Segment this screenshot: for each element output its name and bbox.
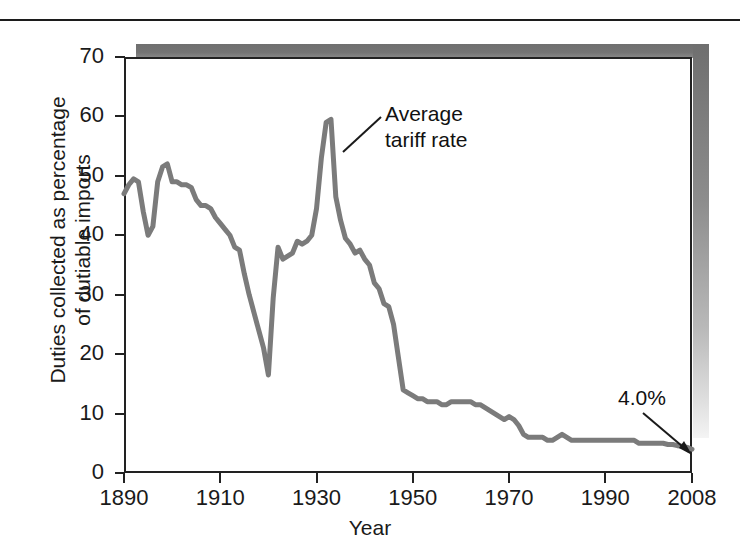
x-tick-1890 — [123, 473, 125, 483]
y-tick-40 — [115, 234, 125, 236]
x-tick-1970 — [508, 473, 510, 483]
x-tick-label-1890: 1890 — [79, 486, 169, 510]
x-tick-1950 — [412, 473, 414, 483]
x-tick-label-1910: 1910 — [175, 486, 265, 510]
y-tick-30 — [115, 294, 125, 296]
plot-shadow-top — [136, 44, 709, 58]
x-tick-label-1950: 1950 — [368, 486, 458, 510]
y-tick-70 — [115, 56, 125, 58]
x-axis-title: Year — [0, 516, 740, 540]
y-tick-20 — [115, 353, 125, 355]
x-tick-label-1930: 1930 — [272, 486, 362, 510]
x-tick-label-1970: 1970 — [464, 486, 554, 510]
x-tick-1930 — [316, 473, 318, 483]
chart-stage: 010203040506070 189019101930195019701990… — [0, 0, 740, 558]
x-tick-1910 — [219, 473, 221, 483]
x-tick-1990 — [604, 473, 606, 483]
y-tick-60 — [115, 115, 125, 117]
x-tick-2008 — [691, 473, 693, 483]
y-tick-50 — [115, 175, 125, 177]
y-tick-label-0: 0 — [44, 461, 104, 483]
y-axis-title: Duties collected as percentage of dutiab… — [45, 30, 95, 450]
y-tick-10 — [115, 413, 125, 415]
endpoint-callout-label: 4.0% — [618, 385, 666, 411]
x-tick-label-1990: 1990 — [560, 486, 650, 510]
series-callout-label: Average tariff rate — [385, 101, 467, 153]
figure-container: 010203040506070 189019101930195019701990… — [0, 0, 740, 558]
x-tick-label-2008: 2008 — [647, 486, 737, 510]
plot-shadow-right — [693, 44, 709, 438]
